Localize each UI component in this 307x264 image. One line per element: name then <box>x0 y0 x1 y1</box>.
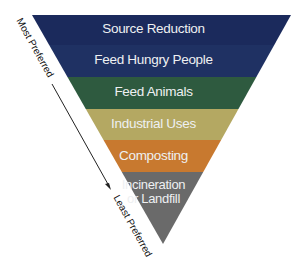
tier-label-feed-animals: Feed Animals <box>0 84 307 99</box>
tier-label-industrial-uses: Industrial Uses <box>0 116 307 131</box>
tier-label-incineration-line1: Incineration <box>0 177 307 192</box>
pyramid-graphic <box>0 0 307 264</box>
tier-label-source-reduction: Source Reduction <box>0 21 307 36</box>
tier-label-incineration-line2: or Landfill <box>0 191 307 206</box>
tier-label-composting: Composting <box>0 148 307 163</box>
food-recovery-hierarchy: Source Reduction Feed Hungry People Feed… <box>0 0 307 264</box>
